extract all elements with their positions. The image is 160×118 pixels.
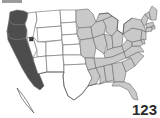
- state-new-mexico: [46, 55, 64, 72]
- top-clipped-artifact: [2, 0, 22, 3]
- us-choropleth-map: 123: [0, 0, 160, 118]
- state-south-dakota: [61, 22, 77, 35]
- state-nebraska: [62, 34, 80, 45]
- state-wyoming: [37, 26, 62, 42]
- state-florida: [112, 82, 138, 100]
- state-connecticut: [146, 27, 152, 32]
- baja-california-peninsula: [17, 88, 34, 113]
- state-washington: [9, 10, 28, 25]
- map-point-marker: [30, 38, 34, 42]
- state-montana: [35, 10, 61, 28]
- state-rhode-island: [152, 26, 155, 29]
- state-north-dakota: [60, 10, 76, 23]
- corner-count-label: 123: [132, 102, 157, 117]
- state-iowa: [77, 27, 93, 40]
- state-kansas: [63, 44, 81, 55]
- state-colorado: [46, 40, 63, 56]
- state-maine: [149, 6, 157, 20]
